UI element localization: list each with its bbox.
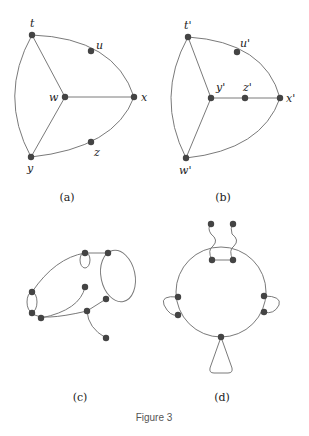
label-t-prime: t' (184, 19, 191, 32)
label-y-prime: y' (215, 81, 225, 94)
edge-h-g (87, 299, 106, 311)
vertex (175, 312, 181, 318)
figure-3: t u w x y z (a) t' u' y' z' x' w' (b) (0, 0, 309, 436)
edge-t-y (188, 37, 211, 98)
vertex (82, 250, 88, 256)
vertex-x (131, 94, 137, 100)
vertex-t-prime (185, 34, 191, 40)
edge-x-y (31, 97, 134, 157)
edge-x-w (186, 98, 280, 158)
vertex-z-prime (242, 95, 248, 101)
vertex-w (62, 94, 68, 100)
edge-triangle (210, 337, 232, 373)
edge-t-x (188, 37, 280, 98)
label-t: t (30, 17, 35, 30)
vertex-u (88, 48, 94, 54)
vertex (105, 250, 111, 256)
vertex (103, 335, 109, 341)
panel-label-a: (a) (59, 191, 74, 204)
vertex (29, 289, 35, 295)
vertex (230, 221, 236, 227)
vertex-t (29, 32, 35, 38)
vertex (218, 334, 224, 340)
label-z: z (93, 146, 100, 159)
label-w-prime: w' (179, 164, 191, 177)
vertex-x-prime (277, 95, 283, 101)
label-u-prime: u' (240, 37, 250, 50)
panel-label-c: (c) (73, 391, 88, 404)
label-x: x (141, 91, 148, 104)
edge-t-w (171, 37, 188, 158)
figure-caption: Figure 3 (136, 412, 173, 423)
vertex-z (88, 139, 94, 145)
panel-c: (c) (27, 247, 140, 404)
panel-a: t u w x y z (a) (15, 17, 148, 204)
vertex (38, 315, 44, 321)
vertex (29, 310, 35, 316)
vertex (208, 221, 214, 227)
vertex (175, 294, 181, 300)
vertex-y-prime (208, 95, 214, 101)
edge-left-loop (163, 297, 178, 316)
edge-squiggle-left (209, 224, 216, 260)
edge-big-loop (96, 247, 140, 305)
panel-label-d: (d) (214, 391, 230, 404)
edge-t-y (15, 35, 32, 157)
vertex (230, 257, 236, 263)
panel-b: t' u' y' z' x' w' (b) (171, 19, 295, 204)
vertex (209, 257, 215, 263)
edge-w-y (31, 97, 65, 157)
vertex-w-prime (183, 155, 189, 161)
label-u: u (96, 39, 103, 52)
label-x-prime: x' (286, 92, 295, 105)
label-w: w (49, 91, 59, 104)
vertex (261, 309, 267, 315)
vertex (84, 308, 90, 314)
vertex (82, 284, 88, 290)
panel-d: (d) (163, 221, 279, 404)
vertex (261, 293, 267, 299)
edge-big-arc (32, 253, 85, 292)
vertex (103, 296, 109, 302)
edge-t-w (32, 35, 65, 97)
panel-label-b: (b) (215, 191, 231, 204)
label-z-prime: z' (242, 81, 252, 94)
edge-t-x (32, 35, 134, 97)
edge-y-w (186, 98, 211, 158)
edge-h-i (87, 311, 106, 338)
edge-squiggle-right (231, 224, 237, 260)
vertex-y (28, 154, 34, 160)
label-y: y (26, 162, 34, 175)
